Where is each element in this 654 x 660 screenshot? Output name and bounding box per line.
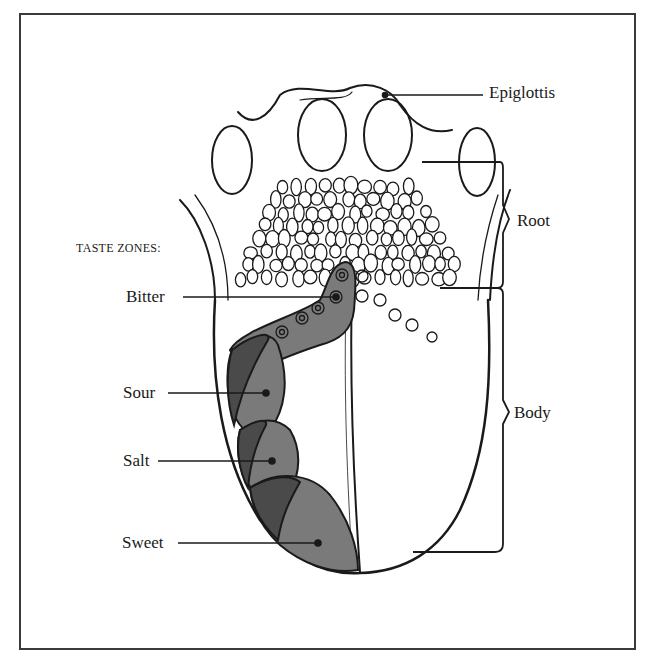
papilla bbox=[304, 270, 317, 284]
papilla bbox=[392, 258, 404, 270]
papilla bbox=[443, 269, 457, 285]
papilla bbox=[253, 230, 266, 247]
papilla bbox=[291, 178, 301, 195]
papilla bbox=[375, 270, 385, 285]
taste-zones-heading: TASTE ZONES: bbox=[76, 242, 161, 254]
papilla bbox=[364, 254, 377, 272]
median-groove bbox=[351, 282, 360, 572]
label-salt: Salt bbox=[123, 452, 149, 469]
label-sweet: Sweet bbox=[122, 534, 164, 551]
papilla bbox=[295, 231, 308, 244]
papilla bbox=[270, 259, 282, 271]
papilla bbox=[276, 272, 288, 287]
label-root: Root bbox=[517, 212, 550, 229]
papilla bbox=[391, 204, 402, 219]
papilla bbox=[421, 206, 432, 218]
papilla bbox=[407, 229, 417, 245]
papilla bbox=[434, 232, 446, 244]
label-sour: Sour bbox=[123, 384, 155, 401]
papilla bbox=[330, 245, 341, 258]
label-bitter: Bitter bbox=[126, 288, 165, 305]
papilla bbox=[381, 233, 391, 246]
papilla bbox=[261, 244, 272, 257]
vallecula-right bbox=[364, 99, 412, 171]
label-body: Body bbox=[514, 404, 551, 421]
papilla bbox=[259, 218, 271, 231]
papilla bbox=[343, 192, 355, 207]
papilla bbox=[435, 257, 445, 271]
papilla bbox=[403, 178, 414, 195]
tongue-illustration bbox=[0, 0, 654, 660]
papilla bbox=[425, 217, 439, 232]
papilla bbox=[319, 179, 331, 192]
papilla bbox=[358, 180, 372, 193]
papilla bbox=[411, 191, 422, 205]
papilla bbox=[305, 245, 315, 258]
papilla bbox=[375, 245, 386, 259]
papilla bbox=[326, 232, 336, 246]
papilla bbox=[313, 221, 323, 233]
papilla bbox=[282, 257, 294, 271]
papilla bbox=[307, 233, 318, 245]
papilla bbox=[367, 193, 380, 206]
papilla bbox=[367, 230, 378, 245]
papilla bbox=[247, 270, 258, 284]
papilla bbox=[344, 176, 358, 194]
vallecula-left bbox=[298, 99, 346, 171]
papilla bbox=[362, 205, 372, 217]
papilla bbox=[261, 270, 271, 284]
body-bracket bbox=[413, 288, 509, 552]
papilla bbox=[403, 270, 413, 287]
papilla bbox=[374, 180, 387, 194]
papilla bbox=[423, 256, 436, 272]
papilla bbox=[393, 231, 405, 246]
papilla bbox=[420, 233, 434, 246]
papilla bbox=[391, 270, 401, 285]
taste-zones bbox=[228, 262, 359, 571]
papilla bbox=[235, 273, 245, 287]
tonsil-left bbox=[212, 126, 252, 194]
papilla bbox=[311, 193, 323, 206]
papilla bbox=[295, 259, 307, 272]
papilla bbox=[328, 217, 338, 233]
papilla bbox=[357, 217, 367, 234]
papilla bbox=[293, 271, 304, 287]
label-epiglottis: Epiglottis bbox=[489, 84, 555, 101]
papilla bbox=[283, 195, 295, 208]
papilla bbox=[416, 273, 429, 286]
papilla bbox=[403, 206, 414, 220]
papilla bbox=[342, 217, 354, 234]
